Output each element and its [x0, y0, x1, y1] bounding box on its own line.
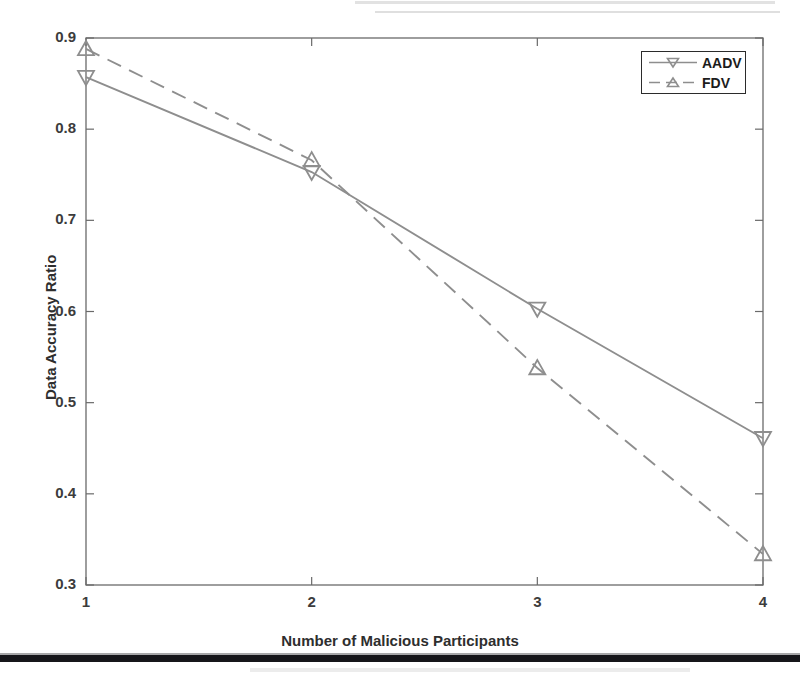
scan-smudge-bottom: [250, 668, 690, 672]
figure-canvas: 0.30.40.50.60.70.80.9 1234 Number of Mal…: [0, 0, 800, 676]
legend-item-aadv: AADV: [642, 52, 745, 73]
x-tick-label: 2: [282, 593, 342, 610]
y-tick-label: 0.4: [14, 484, 76, 501]
chart-legend: AADV FDV: [641, 51, 746, 94]
chart-plot-area: [0, 0, 800, 676]
legend-item-fdv: FDV: [642, 72, 745, 93]
y-tick-label: 0.3: [14, 575, 76, 592]
x-tick-label: 4: [733, 593, 793, 610]
y-axis-title: Data Accuracy Ratio: [42, 255, 59, 400]
legend-label-aadv: AADV: [702, 55, 742, 71]
y-tick-label: 0.8: [14, 119, 76, 136]
series-line-aadv: [86, 77, 763, 438]
y-tick-label: 0.7: [14, 210, 76, 227]
y-tick-label: 0.9: [14, 28, 76, 45]
legend-sample-dashed-triangle-up-icon: [647, 72, 699, 93]
x-axis-title: Number of Malicious Participants: [0, 632, 800, 649]
x-tick-label: 3: [507, 593, 567, 610]
x-tick-label: 1: [56, 593, 116, 610]
legend-sample-solid-triangle-down-icon: [647, 52, 699, 73]
scan-bar-bottom: [0, 655, 800, 662]
series-line-fdv: [86, 49, 763, 554]
legend-label-fdv: FDV: [702, 75, 730, 91]
